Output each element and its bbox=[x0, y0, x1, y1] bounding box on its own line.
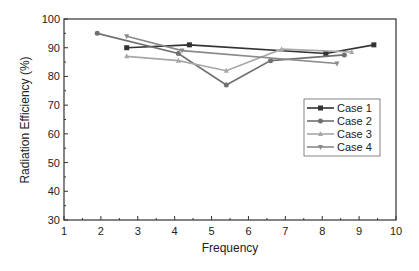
x-axis-label: Frequency bbox=[202, 241, 259, 255]
legend-label: Case 4 bbox=[337, 141, 372, 153]
y-tick-label: 70 bbox=[48, 99, 60, 111]
x-tick-label: 6 bbox=[245, 225, 251, 237]
series-case-3 bbox=[124, 46, 354, 73]
line-chart: 1234567891030405060708090100 Case 1Case … bbox=[0, 0, 419, 271]
x-tick-label: 4 bbox=[172, 225, 178, 237]
y-tick-label: 90 bbox=[48, 42, 60, 54]
legend-label: Case 1 bbox=[337, 102, 372, 114]
y-tick-label: 40 bbox=[48, 185, 60, 197]
y-axis-label: Radiation Efficiency (%) bbox=[18, 56, 32, 183]
y-tick-label: 60 bbox=[48, 128, 60, 140]
y-tick-label: 50 bbox=[48, 157, 60, 169]
x-tick-label: 5 bbox=[208, 225, 214, 237]
series-case-2 bbox=[95, 31, 347, 88]
y-tick-label: 100 bbox=[42, 13, 60, 25]
y-tick-label: 80 bbox=[48, 70, 60, 82]
x-tick-label: 10 bbox=[390, 225, 402, 237]
x-tick-label: 3 bbox=[135, 225, 141, 237]
legend: Case 1Case 2Case 3Case 4 bbox=[304, 99, 380, 156]
series-layer bbox=[95, 31, 377, 88]
legend-label: Case 2 bbox=[337, 115, 372, 127]
legend-label: Case 3 bbox=[337, 128, 372, 140]
chart: 1234567891030405060708090100 Case 1Case … bbox=[0, 0, 419, 271]
x-tick-label: 8 bbox=[319, 225, 325, 237]
y-tick-label: 30 bbox=[48, 214, 60, 226]
x-tick-label: 2 bbox=[98, 225, 104, 237]
x-tick-label: 9 bbox=[356, 225, 362, 237]
x-tick-label: 1 bbox=[61, 225, 67, 237]
x-tick-label: 7 bbox=[282, 225, 288, 237]
